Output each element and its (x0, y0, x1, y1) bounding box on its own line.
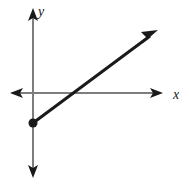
graph-canvas: y x (0, 0, 189, 184)
plotted-ray (33, 36, 150, 123)
x-axis-label: x (172, 87, 180, 102)
y-axis-label: y (36, 4, 45, 19)
endpoint-dot-marker (29, 119, 38, 128)
coordinate-plane-figure: y x (0, 0, 189, 184)
